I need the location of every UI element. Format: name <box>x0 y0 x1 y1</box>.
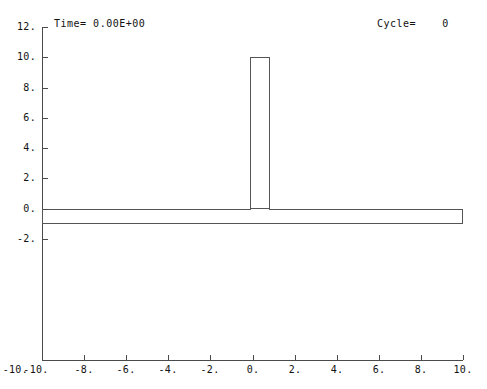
y-tick-label: -2. <box>2 233 36 244</box>
x-tick-neg2 <box>210 355 211 360</box>
x-tick-neg6 <box>126 355 127 360</box>
x-tick-label: -6. <box>106 364 146 375</box>
y-tick-8 <box>43 88 48 89</box>
x-tick-2 <box>295 355 296 360</box>
x-tick-label: -10. <box>16 364 56 375</box>
y-tick-label: 12. <box>2 21 36 32</box>
x-tick-label: 0. <box>233 364 273 375</box>
y-tick-6 <box>43 118 48 119</box>
x-tick-6 <box>379 355 380 360</box>
y-tick-0 <box>43 209 48 210</box>
y-tick-label: 0. <box>2 203 36 214</box>
y-tick-4 <box>43 148 48 149</box>
x-axis-line <box>42 360 463 361</box>
y-axis-line <box>42 27 43 360</box>
base-slab-shape <box>42 209 463 224</box>
x-tick-label: -4. <box>148 364 188 375</box>
vertical-column-shape <box>250 57 270 208</box>
x-tick-10 <box>463 355 464 360</box>
x-tick-4 <box>337 355 338 360</box>
x-tick-label: 4. <box>317 364 357 375</box>
x-tick-label: -8. <box>64 364 104 375</box>
x-tick-neg4 <box>168 355 169 360</box>
column-slab-joint <box>251 209 269 210</box>
x-tick-label: 8. <box>401 364 441 375</box>
y-tick-2 <box>43 178 48 179</box>
x-tick-label: 6. <box>359 364 399 375</box>
x-tick-label: -2. <box>190 364 230 375</box>
cycle-annotation: Cycle= 0 <box>377 18 449 29</box>
y-tick-label: 10. <box>2 51 36 62</box>
x-tick-label: 2. <box>275 364 315 375</box>
x-tick-0 <box>253 355 254 360</box>
y-tick-label: 8. <box>2 82 36 93</box>
x-tick-label: 10. <box>443 364 483 375</box>
x-tick-neg8 <box>84 355 85 360</box>
y-tick-label: 2. <box>2 172 36 183</box>
x-tick-8 <box>421 355 422 360</box>
y-tick-neg2 <box>43 239 48 240</box>
y-tick-12 <box>43 27 48 28</box>
y-tick-label: 4. <box>2 142 36 153</box>
time-annotation: Time= 0.00E+00 <box>54 18 145 29</box>
y-tick-10 <box>43 57 48 58</box>
plot-canvas: Time= 0.00E+00 Cycle= 0 -2.0.2.4.6.8.10.… <box>0 0 487 389</box>
y-tick-label: 6. <box>2 112 36 123</box>
